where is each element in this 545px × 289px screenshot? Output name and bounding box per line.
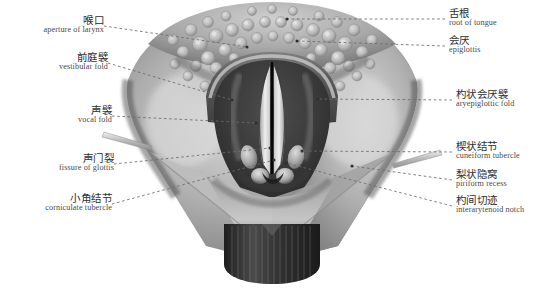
label-piriform-recess[interactable]: 梨状隐窝 piriform recess: [456, 169, 507, 189]
label-aperture-of-larynx[interactable]: 喉口 aperture of larynx: [44, 15, 104, 35]
label-interarytenoid-notch[interactable]: 杓间切迹 interarytenoid notch: [456, 195, 524, 215]
label-aperture-of-larynx-en: aperture of larynx: [44, 26, 104, 35]
label-root-of-tongue[interactable]: 舌根 root of tongue: [449, 8, 497, 28]
larynx-figure: 喉口 aperture of larynx 前庭襞 vestibular fol…: [0, 0, 545, 289]
label-interarytenoid-notch-en: interarytenoid notch: [456, 206, 524, 215]
label-piriform-recess-en: piriform recess: [456, 180, 507, 189]
label-vestibular-fold[interactable]: 前庭襞 vestibular fold: [59, 52, 108, 72]
label-corniculate-tubercle[interactable]: 小角结节 corniculate tubercle: [45, 193, 112, 213]
trachea-stump: [224, 224, 320, 284]
label-corniculate-tubercle-en: corniculate tubercle: [45, 204, 112, 213]
label-vestibular-fold-en: vestibular fold: [59, 63, 108, 72]
label-root-of-tongue-en: root of tongue: [449, 19, 497, 28]
label-epiglottis-en: epiglottis: [449, 46, 480, 55]
label-cuneiform-tubercle[interactable]: 楔状结节 cuneiform tubercle: [456, 141, 520, 161]
label-aryepiglottic-fold[interactable]: 杓状会厌襞 aryepiglottic fold: [456, 89, 514, 109]
label-vocal-fold[interactable]: 声襞 vocal fold: [78, 105, 112, 125]
label-epiglottis[interactable]: 会厌 epiglottis: [449, 35, 480, 55]
label-aryepiglottic-fold-en: aryepiglottic fold: [456, 100, 514, 109]
label-fissure-of-glottis[interactable]: 声门裂 fissure of glottis: [59, 153, 114, 173]
label-cuneiform-tubercle-en: cuneiform tubercle: [456, 152, 520, 161]
label-vocal-fold-en: vocal fold: [78, 116, 112, 125]
label-fissure-of-glottis-en: fissure of glottis: [59, 164, 114, 173]
